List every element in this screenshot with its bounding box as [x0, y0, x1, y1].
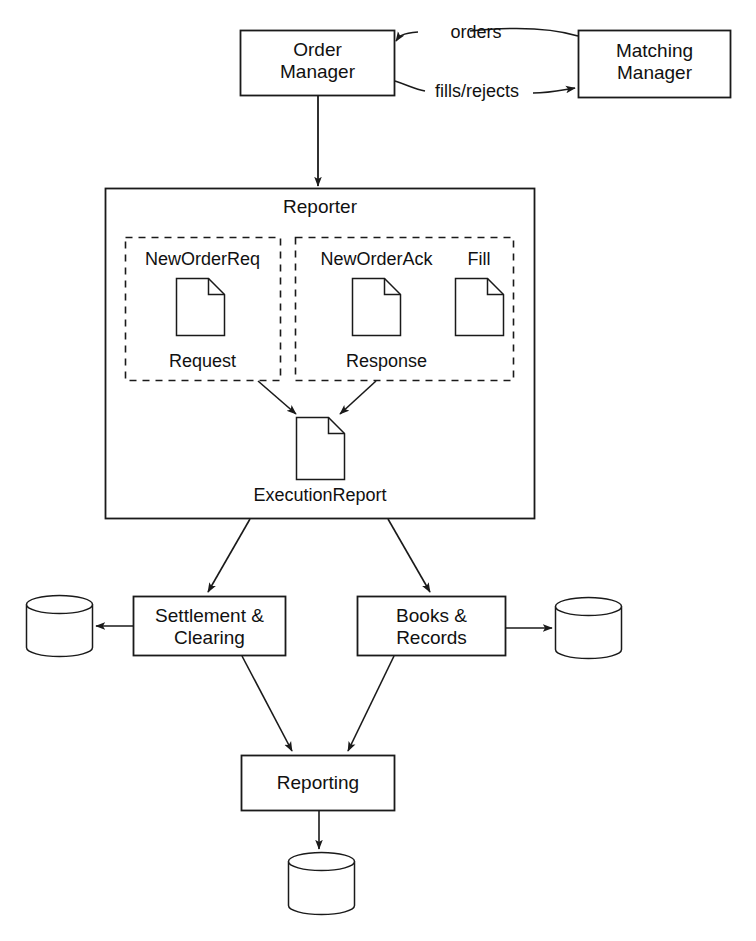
request-group-label: Request: [124, 351, 281, 372]
reporter-container[interactable]: [106, 189, 535, 519]
database-cylinder-bottom[interactable]: [289, 853, 355, 915]
diagram-canvas: Order Manager Matching Manager orders fi…: [0, 0, 756, 941]
matching-manager-label: Matching Manager: [578, 40, 731, 85]
database-cylinder-left[interactable]: [27, 596, 93, 657]
diagram-vector-layer: [0, 0, 756, 941]
document-icon-new-order-req[interactable]: [177, 279, 225, 336]
fills-rejects-edge: [533, 88, 575, 93]
matching-manager-box[interactable]: [579, 31, 731, 98]
request-group-box[interactable]: [126, 238, 281, 381]
response-group-box[interactable]: [296, 238, 514, 381]
fills-rejects-edge-label: fills/rejects: [418, 81, 536, 102]
request-to-execution-report-edge: [258, 381, 296, 414]
books-to-reporting-edge: [348, 656, 394, 751]
settlement-clearing-box[interactable]: [134, 597, 286, 656]
new-order-ack-label: NewOrderAck: [300, 249, 453, 270]
response-to-execution-report-edge: [340, 381, 376, 414]
reporter-title: Reporter: [106, 196, 534, 218]
reporting-label: Reporting: [241, 772, 395, 794]
document-icon-new-order-ack[interactable]: [353, 279, 401, 336]
settlement-clearing-label: Settlement & Clearing: [133, 605, 286, 650]
orders-edge-tail: [396, 32, 418, 41]
order-manager-box[interactable]: [241, 31, 395, 96]
reporter-to-books-edge: [388, 519, 430, 592]
order-manager-label: Order Manager: [240, 39, 395, 84]
reporting-box[interactable]: [242, 756, 395, 811]
database-cylinder-right[interactable]: [556, 598, 622, 659]
document-icon-fill[interactable]: [456, 279, 504, 336]
execution-report-label: ExecutionReport: [230, 485, 410, 506]
fills-rejects-edge-tail: [395, 81, 425, 91]
reporter-to-settlement-edge: [208, 519, 250, 592]
settlement-to-reporting-edge: [242, 656, 292, 751]
books-records-box[interactable]: [358, 597, 506, 656]
fill-label: Fill: [452, 249, 506, 270]
books-records-label: Books & Records: [357, 605, 506, 650]
new-order-req-label: NewOrderReq: [124, 249, 281, 270]
orders-edge-label: orders: [420, 22, 532, 43]
response-group-label: Response: [320, 351, 453, 372]
orders-edge: [470, 29, 578, 36]
document-icon-execution-report[interactable]: [297, 418, 345, 480]
